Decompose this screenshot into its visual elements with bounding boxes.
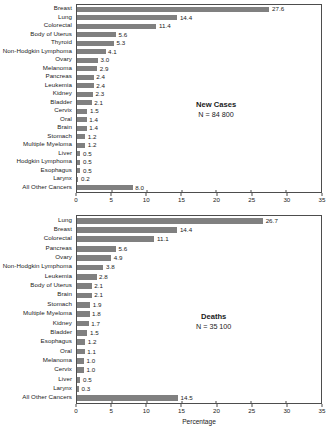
bar-row: 0.2 [77,177,321,182]
bar-row: 1.9 [77,302,321,308]
annotation-subtitle-new-cases: N = 84 800 [196,110,236,120]
bar-row: 0.5 [77,168,321,173]
bar-row: 2.1 [77,293,321,299]
bar-value-label: 0.5 [83,377,92,383]
bar-row: 2.4 [77,75,321,80]
bar [77,227,177,233]
bar [77,83,94,88]
bar-value-label: 2.8 [99,274,108,280]
x-tick-label: 30 [283,197,290,203]
bar [77,7,269,12]
bar [77,160,80,165]
category-label: Ovary [55,254,72,260]
category-label: Larynx [53,385,72,391]
bar-value-label: 0.2 [81,176,90,182]
category-label: Oral [60,347,72,353]
bar [77,386,79,392]
bar [77,265,103,271]
bar-value-label: 2.1 [94,283,103,289]
category-label: Thyroid [51,39,72,45]
category-label: Pancreas [45,73,72,79]
x-tick-inner [286,190,287,193]
bar-value-label: 0.5 [83,151,92,157]
bar [77,185,133,190]
x-tick-label: 25 [248,408,255,414]
category-label: Multiple Myeloma [23,310,72,316]
bar-row: 14.4 [77,227,321,233]
bar-row: 1.4 [77,126,321,131]
x-tick-inner [216,190,217,193]
category-label: Colorectal [44,22,72,28]
annotation-title-new-cases: New Cases [196,100,236,110]
x-tick-label: 20 [213,197,220,203]
category-label: Bladder [50,99,72,105]
bar-value-label: 5.3 [116,40,125,46]
x-tick-label: 35 [319,408,326,414]
x-tick-label: 35 [319,197,326,203]
bar [77,49,106,54]
bar-value-label: 1.4 [89,117,98,123]
bar-row: 2.4 [77,83,321,88]
bar-row: 4.1 [77,49,321,54]
category-label: Leukemia [45,82,72,88]
bar-value-label: 2.4 [96,83,105,89]
bar-value-label: 5.6 [119,32,128,38]
category-axis-deaths: LungBreastColorectalPancreasOvaryNon-Hod… [0,215,74,404]
bar-row: 0.3 [77,386,321,392]
bar [77,126,87,131]
category-label: Pancreas [45,245,72,251]
bar-value-label: 1.5 [90,108,99,114]
bar [77,358,84,364]
bar-value-label: 14.4 [180,227,192,233]
annotation-title-deaths: Deaths [196,312,231,322]
bar-value-label: 1.8 [92,311,101,317]
bar [77,255,111,261]
bar-row: 14.5 [77,395,321,401]
category-label: Oral [60,116,72,122]
x-tick-inner [251,190,252,193]
x-tick-inner [146,190,147,193]
category-label: Melanoma [43,65,72,71]
x-tick-inner [286,401,287,404]
category-label: Kidney [53,90,72,96]
x-tick-inner [111,190,112,193]
bar-row: 14.4 [77,15,321,20]
annotation-new-cases: New Cases N = 84 800 [196,100,236,120]
bar-value-label: 1.0 [86,358,95,364]
plot-frame-new-cases: 27.614.411.45.65.34.13.02.92.42.42.32.11… [76,4,322,193]
bar-value-label: 0.5 [83,168,92,174]
bar-value-label: 2.1 [94,100,103,106]
category-label: Cervix [54,107,72,113]
bar-value-label: 3.0 [100,57,109,63]
category-label: Body of Uterus [30,282,72,288]
bar-row: 11.4 [77,24,321,29]
bar-value-label: 2.9 [100,66,109,72]
x-tick-inner [146,401,147,404]
bar [77,283,92,289]
bar [77,134,85,139]
x-tick-inner [111,401,112,404]
bar-row: 0.5 [77,160,321,165]
bar [77,321,89,327]
bar [77,274,97,280]
x-axis-title: Percentage [76,418,322,425]
category-label: Esophagus [41,338,72,344]
bar [77,75,94,80]
bar [77,236,154,242]
bar [77,339,85,345]
category-label: Breast [54,5,72,11]
category-label: All Other Cancers [22,184,72,190]
bar [77,168,80,173]
bar [77,246,116,252]
bar [77,109,87,114]
category-label: Stomach [47,301,72,307]
bar-value-label: 3.8 [106,264,115,270]
bar-value-label: 1.2 [88,142,97,148]
bar-row: 1.2 [77,339,321,345]
category-label: Lung [58,217,72,223]
bar-value-label: 2.1 [94,292,103,298]
category-axis-new-cases: BreastLungColorectalBody of UterusThyroi… [0,4,74,193]
category-label: Brain [57,124,72,130]
annotation-subtitle-deaths: N = 35 100 [196,322,231,332]
bar-value-label: 11.4 [159,23,171,29]
